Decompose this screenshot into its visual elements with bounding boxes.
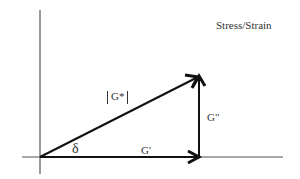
g-prime-label: G' [141,145,151,156]
g-double-prime-label: G" [207,112,219,123]
diagram-title: Stress/Strain [216,20,272,31]
abs-bar-right [127,91,128,104]
abs-bar-left [107,91,108,104]
g-star-text: G* [111,90,124,102]
phase-angle-label: δ [72,142,79,156]
vector-diagram: Stress/Strain G* G" G' δ [0,0,300,179]
g-star-label: G* [104,91,131,104]
